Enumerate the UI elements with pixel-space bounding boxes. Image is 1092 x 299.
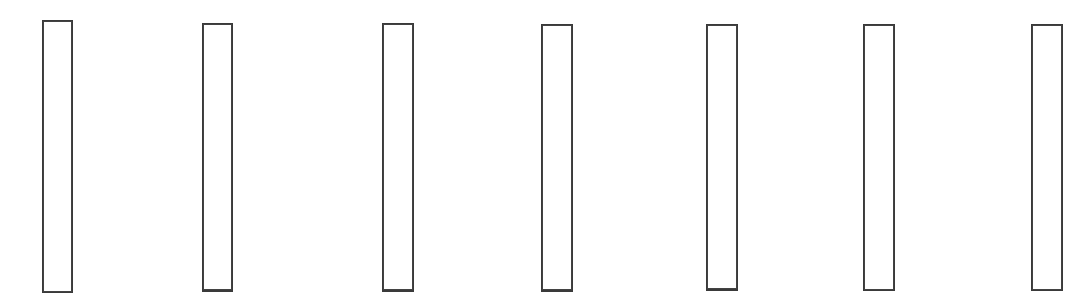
page-canvas [0,0,1092,299]
empty-box-2 [202,23,233,292]
empty-box-4 [541,24,573,292]
empty-box-1 [42,20,73,293]
empty-box-3 [382,23,414,292]
empty-box-5 [706,24,738,291]
empty-box-7 [1031,24,1063,291]
empty-box-6 [863,24,895,291]
